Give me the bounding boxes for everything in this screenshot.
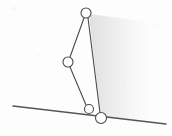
joint-lower-middle bbox=[85, 105, 94, 114]
link-upper-left bbox=[70, 18, 84, 57]
joint-top bbox=[81, 8, 91, 18]
joint-ground-pivot bbox=[96, 113, 107, 124]
figure-canvas bbox=[0, 0, 172, 136]
joint-middle-left bbox=[63, 57, 73, 67]
scan-shadow-region bbox=[89, 14, 150, 120]
link-lower-left bbox=[70, 67, 86, 105]
linkage-diagram-svg bbox=[0, 0, 172, 136]
